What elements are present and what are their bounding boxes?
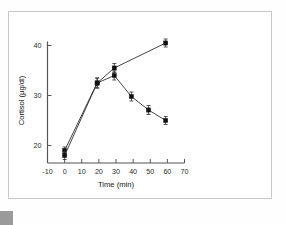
data-point-marker (95, 81, 99, 85)
series-rising (63, 39, 168, 154)
series-peak-and-decline (63, 71, 168, 160)
y-tick-label: 30 (34, 91, 42, 100)
cortisol-time-line-chart: 203040 -10010203040506070 Time (min) Cor… (0, 0, 286, 225)
series-polyline (65, 43, 166, 151)
data-series-layer (63, 39, 168, 160)
data-point-marker (129, 94, 133, 98)
x-tick-label: 50 (146, 167, 154, 176)
data-point-marker (112, 73, 116, 77)
x-tick-label: 70 (181, 167, 189, 176)
x-tick-label: 10 (78, 167, 86, 176)
x-tick-label: 30 (112, 167, 120, 176)
y-tick-label: 20 (34, 141, 42, 150)
x-tick-label: 40 (129, 167, 137, 176)
chart-axes (48, 42, 185, 164)
y-tick-label: 40 (34, 41, 42, 50)
x-tick-label: 20 (95, 167, 103, 176)
x-tick-label: 0 (63, 167, 67, 176)
x-axis-ticks: -10010203040506070 (42, 159, 188, 176)
x-tick-label: 60 (163, 167, 171, 176)
data-point-marker (63, 153, 67, 157)
y-axis-title: Cortisol (µg/dl) (17, 75, 26, 125)
data-point-marker (146, 108, 150, 112)
x-axis-title: Time (min) (98, 180, 134, 189)
data-point-marker (164, 118, 168, 122)
x-tick-label: -10 (42, 167, 52, 176)
series-polyline (65, 76, 166, 156)
data-point-marker (164, 41, 168, 45)
data-point-marker (112, 66, 116, 70)
page-canvas: 203040 -10010203040506070 Time (min) Cor… (0, 0, 286, 225)
y-axis-ticks: 203040 (34, 41, 52, 150)
